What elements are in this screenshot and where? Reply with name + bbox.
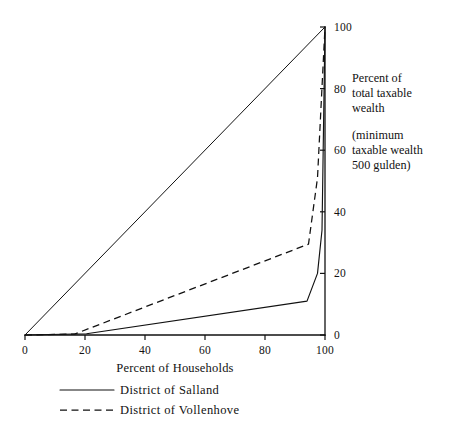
y-axis-title-line-2: total taxable [352,86,452,101]
legend-item-label: District of Vollenhove [120,403,239,418]
y-axis-title-primary: Percent of total taxable wealth [352,71,452,117]
legend-dashed-line-icon [58,404,120,416]
lorenz-curve-figure: 020406080100 020406080100 Percent of Hou… [0,0,455,427]
legend-item: District of Vollenhove [58,400,358,420]
x-axis-tick-label: 100 [316,344,334,356]
y-axis-title-line-3: wealth [352,101,452,116]
x-axis-tick-label: 40 [139,344,151,356]
y-axis-note-line-2: taxable wealth [352,143,452,158]
y-axis-title-line-1: Percent of [352,71,452,86]
chart-legend: District of SallandDistrict of Vollenhov… [58,380,358,420]
series-group [25,27,325,335]
x-axis-tick-label: 60 [199,344,211,356]
legend-item: District of Salland [58,380,358,400]
y-axis-tick-label: 40 [334,206,346,218]
y-axis-tick-label: 0 [334,329,340,341]
x-axis-title: Percent of Households [116,361,233,376]
series-line-of-perfect-equality [25,27,325,335]
y-axis-tick-label: 20 [334,267,346,279]
legend-item-label: District of Salland [120,383,219,398]
y-axis-tick-label: 60 [334,144,346,156]
x-axis-tick-label: 20 [79,344,91,356]
y-axis-title-block: Percent of total taxable wealth (minimum… [352,71,452,173]
y-axis-note-line-3: 500 gulden) [352,158,452,173]
x-axis-tick-label: 0 [22,344,28,356]
legend-solid-line-icon [58,384,120,396]
y-axis-note-line-1: (minimum [352,128,452,143]
y-axis-tick-label: 80 [334,83,346,95]
ticks-group [25,27,325,340]
y-axis-note-secondary: (minimum taxable wealth 500 gulden) [352,128,452,174]
y-axis-tick-label: 100 [334,21,352,33]
x-axis-tick-label: 80 [259,344,271,356]
